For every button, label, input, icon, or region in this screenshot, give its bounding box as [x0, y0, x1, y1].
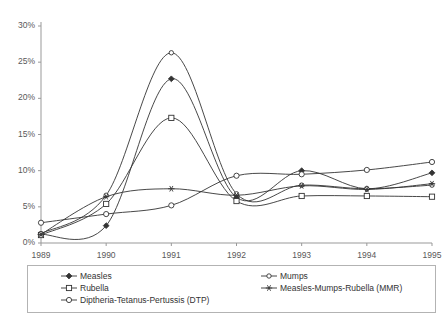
marker-open-circle: [429, 159, 434, 164]
legend-item: Diptheria-Tetanus-Pertussis (DTP): [60, 295, 209, 305]
legend-item: Rubella: [60, 283, 109, 293]
marker-asterisk: [266, 285, 272, 291]
marker-open-circle: [104, 211, 109, 216]
x-axis-tick-label: 1991: [146, 250, 196, 260]
marker-open-square: [66, 285, 71, 290]
legend-label: Rubella: [80, 283, 109, 293]
marker-filled-diamond: [66, 273, 72, 279]
x-axis-tick-label: 1989: [16, 250, 66, 260]
plot-area: [0, 0, 443, 265]
y-axis-tick-label: 5%: [0, 201, 35, 211]
marker-open-circle-small: [169, 51, 173, 55]
legend-marker-open-square-icon: [60, 283, 78, 293]
x-axis-tick-label: 1990: [81, 250, 131, 260]
marker-open-square: [234, 198, 239, 203]
legend-marker-asterisk-icon: [260, 283, 278, 293]
marker-open-circle: [169, 203, 174, 208]
chart-canvas: [0, 0, 443, 265]
y-axis-tick-label: 25%: [0, 56, 35, 66]
chart-legend: MeaslesMumpsRubellaMeasles-Mumps-Rubella…: [27, 265, 436, 313]
marker-open-circle: [66, 297, 71, 302]
marker-open-square: [429, 194, 434, 199]
y-axis-tick-label: 0%: [0, 237, 35, 247]
legend-label: Measles: [80, 271, 112, 281]
marker-filled-diamond: [429, 170, 435, 176]
legend-item: Mumps: [260, 271, 308, 281]
series-line: [41, 53, 432, 234]
y-axis-tick-label: 30%: [0, 20, 35, 30]
legend-marker-open-circle-small-icon: [260, 271, 278, 281]
marker-open-square: [299, 193, 304, 198]
marker-open-circle: [234, 173, 239, 178]
x-axis-tick-label: 1995: [407, 250, 443, 260]
legend-item: Measles-Mumps-Rubella (MMR): [260, 283, 402, 293]
marker-open-square: [104, 201, 109, 206]
legend-item: Measles: [60, 271, 112, 281]
series-mumps: [39, 51, 434, 236]
y-axis-tick-label: 20%: [0, 92, 35, 102]
marker-open-circle: [364, 167, 369, 172]
y-axis-tick-label: 10%: [0, 165, 35, 175]
marker-open-circle: [299, 172, 304, 177]
y-axis-tick-label: 15%: [0, 129, 35, 139]
x-axis-tick-label: 1993: [277, 250, 327, 260]
marker-open-circle-small: [267, 274, 271, 278]
marker-open-square: [169, 115, 174, 120]
marker-filled-diamond: [168, 76, 174, 82]
legend-marker-open-circle-icon: [60, 295, 78, 305]
legend-label: Measles-Mumps-Rubella (MMR): [280, 283, 402, 293]
legend-label: Diptheria-Tetanus-Pertussis (DTP): [80, 295, 209, 305]
marker-open-square: [364, 193, 369, 198]
marker-asterisk: [168, 186, 174, 192]
marker-open-circle: [38, 220, 43, 225]
x-axis-tick-label: 1994: [342, 250, 392, 260]
series-measles-mumps-rubella-mmr: [38, 181, 435, 237]
x-axis-tick-label: 1992: [212, 250, 262, 260]
legend-marker-filled-diamond-icon: [60, 271, 78, 281]
line-chart: 0%5%10%15%20%25%30% 19891990199119921993…: [0, 0, 443, 317]
legend-label: Mumps: [280, 271, 308, 281]
